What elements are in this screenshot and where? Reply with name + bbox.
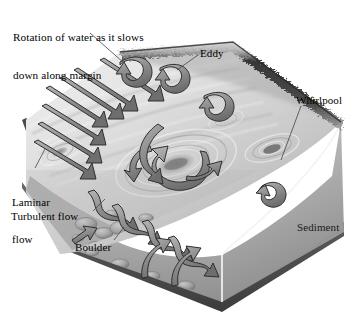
label-eddy: Eddy: [200, 47, 224, 59]
label-whirlpool: Whirlpool: [296, 94, 342, 106]
label-sediment: Sediment: [297, 221, 339, 233]
stream-flow-figure: Rotation of water as it slows down along…: [0, 0, 356, 330]
label-laminar-line-2: flow: [12, 233, 50, 245]
caption-rotation-of-water: Rotation of water as it slows down along…: [13, 6, 144, 106]
caption-line-2: down along margin: [13, 69, 144, 82]
caption-line-1: Rotation of water as it slows: [13, 31, 144, 44]
label-turbulent-flow: Turbulent flow: [11, 210, 78, 222]
label-laminar-line-1: Laminar: [12, 196, 50, 208]
label-boulder: Boulder: [75, 241, 111, 253]
